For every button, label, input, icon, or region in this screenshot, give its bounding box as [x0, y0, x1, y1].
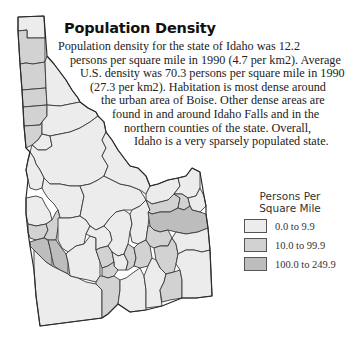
legend-swatch-mid [244, 238, 267, 252]
legend-swatch-low [244, 219, 267, 233]
legend-title-line: Square Mile [248, 202, 332, 214]
legend: Persons Per Square Mile 0.0 to 9.9 10.0 … [244, 190, 344, 271]
description-line: northern counties of the state. Overall, [58, 122, 328, 136]
legend-title: Persons Per Square Mile [248, 190, 332, 214]
county-washington [26, 196, 52, 226]
description-line: Idaho is a very sparsely populated state… [58, 135, 328, 149]
county-benewah [22, 88, 47, 107]
legend-item-mid: 10.0 to 99.9 [244, 238, 344, 252]
description-line: (27.3 per km2). Habitation is most dense… [58, 81, 328, 95]
description-line: the urban area of Boise. Other dense are… [58, 94, 328, 108]
legend-title-line: Persons Per [248, 190, 332, 202]
legend-label: 100.0 to 249.9 [275, 259, 336, 270]
legend-item-low: 0.0 to 9.9 [244, 219, 344, 233]
description-line: found in and around Idaho Falls and in t… [58, 108, 328, 122]
map-title: Population Density [64, 20, 216, 36]
legend-swatch-high [244, 257, 267, 271]
county-cassia [118, 268, 146, 312]
description-paragraph: Population density for the state of Idah… [58, 40, 328, 149]
description-line: persons per square mile in 1990 (4.7 per… [58, 54, 328, 68]
description-line: U.S. density was 70.3 persons per square… [58, 67, 328, 81]
county-kootenai [20, 62, 46, 90]
legend-item-high: 100.0 to 249.9 [244, 257, 344, 271]
legend-label: 10.0 to 99.9 [275, 240, 325, 251]
description-line: Population density for the state of Idah… [58, 40, 328, 54]
legend-label: 0.0 to 9.9 [275, 221, 315, 232]
